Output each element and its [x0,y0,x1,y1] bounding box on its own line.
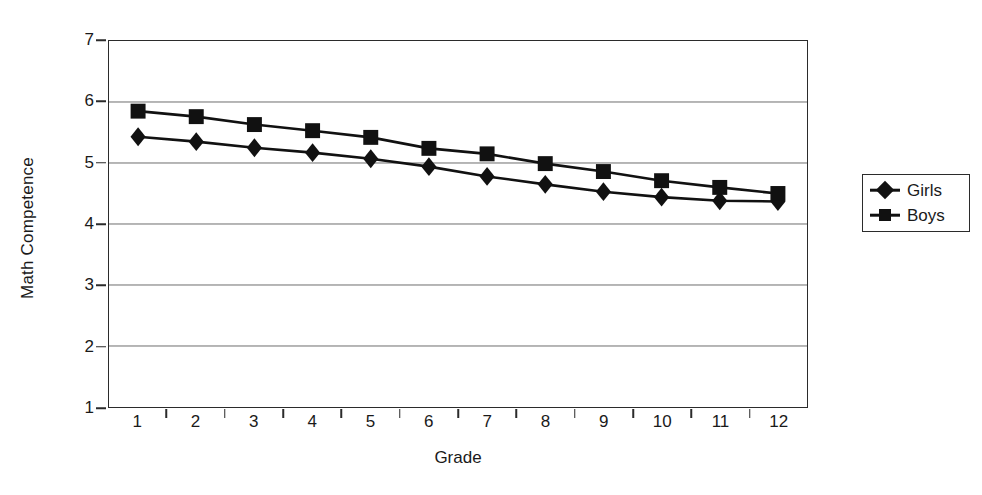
chart-legend: Girls Boys [862,174,970,232]
data-point-diamond [247,138,262,157]
data-point-diamond [480,167,495,186]
data-point-square [247,117,262,132]
x-minor-tick [457,409,459,418]
data-point-diamond [131,127,146,146]
data-point-diamond [305,143,320,162]
y-tick-mark [96,101,106,103]
data-point-square [421,141,436,156]
x-tick-label: 2 [176,412,216,432]
x-tick-label: 5 [351,412,391,432]
x-tick-label: 11 [701,412,741,432]
x-minor-tick [282,409,284,418]
x-tick-label: 7 [467,412,507,432]
chart-figure: Math Competence 1234567 123456789101112 … [0,0,982,495]
x-minor-tick [341,409,343,418]
data-point-square [363,130,378,145]
legend-marker-square-icon [870,206,900,224]
y-tick-label: 3 [52,275,94,295]
series-line-girls [138,137,778,202]
x-minor-tick [166,409,168,418]
x-minor-tick [516,409,518,418]
x-tick-label: 3 [234,412,274,432]
data-point-square [596,164,611,179]
x-tick-label: 10 [642,412,682,432]
x-minor-tick [749,409,751,418]
x-tick-label: 12 [759,412,799,432]
y-axis-title: Math Competence [18,108,38,348]
series-line-boys [138,111,778,193]
x-tick-label: 1 [117,412,157,432]
y-tick-mark [96,162,106,164]
legend-marker-diamond-icon [870,181,900,199]
data-point-square [770,186,785,201]
x-tick-label: 4 [292,412,332,432]
y-tick-mark [96,39,106,41]
x-axis-title: Grade [108,448,808,468]
x-tick-label: 9 [584,412,624,432]
x-tick-label: 6 [409,412,449,432]
data-point-diamond [189,132,204,151]
y-tick-mark [96,407,106,409]
y-tick-mark [96,285,106,287]
data-point-square [131,104,146,119]
data-point-square [189,109,204,124]
y-tick-label: 5 [52,153,94,173]
x-minor-tick [574,409,576,418]
x-tick-label: 8 [526,412,566,432]
x-minor-tick [224,409,226,418]
y-tick-label: 2 [52,337,94,357]
data-point-diamond [538,175,553,194]
data-point-diamond [421,157,436,176]
legend-label: Girls [907,182,942,199]
data-point-diamond [654,188,669,207]
y-tick-label: 4 [52,214,94,234]
data-point-square [538,156,553,171]
data-point-square [712,180,727,195]
legend-label: Boys [907,207,945,224]
y-tick-mark [96,223,106,225]
y-tick-mark [96,346,106,348]
legend-item-boys[interactable]: Boys [870,203,945,227]
y-tick-label: 6 [52,91,94,111]
legend-item-girls[interactable]: Girls [870,178,942,202]
y-tick-label: 1 [52,398,94,418]
data-point-diamond [363,149,378,168]
y-tick-label: 7 [52,30,94,50]
x-minor-tick [632,409,634,418]
data-point-square [480,146,495,161]
data-point-diamond [596,182,611,201]
data-point-square [654,173,669,188]
x-minor-tick [399,409,401,418]
plot-area [108,40,808,408]
data-series-layer [109,41,807,407]
data-point-square [305,123,320,138]
x-minor-tick [691,409,693,418]
